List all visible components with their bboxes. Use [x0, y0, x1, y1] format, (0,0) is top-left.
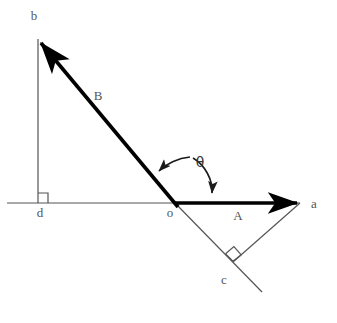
point-label-a: a — [311, 196, 317, 211]
vector-label-B: A — [233, 208, 243, 223]
right-angle-at-c-icon — [226, 247, 242, 255]
theta-arc-left-half — [159, 157, 190, 171]
point-label-d: d — [37, 205, 44, 220]
point-label-c: c — [221, 272, 227, 287]
vector-B-arrow — [41, 43, 178, 207]
vector-label-A: B — [94, 88, 103, 103]
right-angle-at-d-icon — [38, 193, 48, 203]
point-label-o: o — [167, 205, 174, 220]
ac-perpendicular-line — [233, 203, 300, 262]
right-angle-at-c-closing — [226, 254, 233, 261]
vector-diagram-canvas: b d o a c A B θ — [0, 0, 337, 323]
theta-angle-label: θ — [196, 154, 205, 170]
right-angle-at-c-closing-2 — [233, 255, 241, 261]
vector-diagram-svg: b d o a c A B θ — [0, 0, 337, 323]
point-label-b: b — [31, 8, 38, 23]
